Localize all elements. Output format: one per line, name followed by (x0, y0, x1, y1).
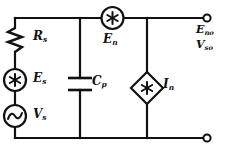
noise-voltage-source-symbol (4, 69, 26, 91)
resistor-label-main: R (33, 29, 43, 43)
noise-current-source-symbol (131, 72, 163, 104)
capacitor-label: Cp (92, 75, 107, 87)
bottom-terminal-label: Vso (196, 39, 213, 50)
circuit-diagram-canvas: Rs Es Vs Cp En In Eno Vso (0, 0, 229, 154)
bottom-output-terminal[interactable] (203, 134, 210, 141)
signal-source-label: Vs (33, 108, 47, 120)
noise-current-source-label-sub: n (169, 83, 174, 92)
capacitor-symbol (68, 78, 92, 90)
resistor-label: Rs (33, 30, 47, 42)
signal-source-label-sub: s (42, 113, 46, 122)
noise-voltage-source-label-main: E (33, 71, 42, 85)
ac-signal-source-symbol (4, 105, 26, 127)
capacitor-label-main: C (92, 74, 102, 88)
series-noise-source-label-sub: n (112, 38, 117, 47)
resistor-label-sub: s (43, 35, 47, 44)
signal-source-label-main: V (33, 107, 42, 121)
noise-current-source-label: In (163, 78, 174, 90)
series-noise-source-symbol (102, 7, 124, 29)
series-noise-source-label-main: E (103, 32, 112, 46)
top-output-terminal[interactable] (203, 14, 210, 21)
noise-current-source-label-main: I (163, 77, 169, 91)
noise-voltage-source-label-sub: s (42, 77, 46, 86)
series-noise-source-label: En (103, 33, 118, 45)
top-terminal-label-sub: no (204, 29, 214, 37)
noise-voltage-source-label: Es (33, 72, 46, 84)
bottom-terminal-label-sub: so (205, 44, 213, 52)
resistor-symbol (8, 28, 22, 52)
top-terminal-label: Eno (196, 24, 214, 35)
capacitor-label-sub: p (102, 80, 107, 89)
bottom-terminal-label-main: V (196, 38, 205, 51)
